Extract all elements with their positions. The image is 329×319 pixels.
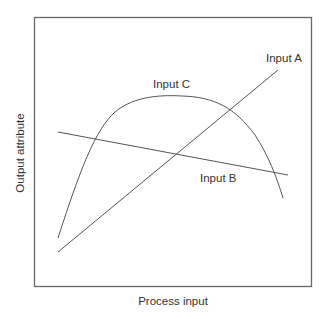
y-axis-label: Output attribute: [14, 113, 26, 192]
x-axis-label: Process input: [138, 295, 208, 307]
label-input-a: Input A: [266, 52, 302, 64]
series-input-a: [58, 70, 278, 252]
series-input-c: [58, 96, 283, 238]
label-input-b: Input B: [200, 172, 237, 184]
series-input-b: [58, 132, 288, 175]
chart: Input A Input C Input B Process input Ou…: [0, 0, 329, 319]
label-input-c: Input C: [153, 78, 190, 90]
